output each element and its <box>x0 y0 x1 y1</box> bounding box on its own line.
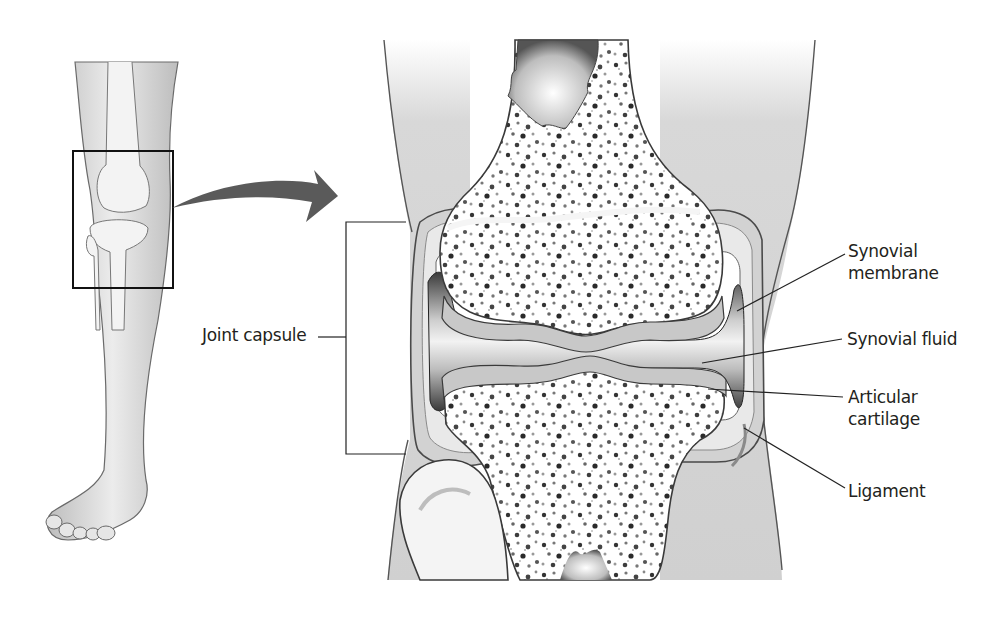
joint-capsule-bracket <box>346 222 406 454</box>
knee-diagram <box>0 0 1008 624</box>
fibula-small <box>86 236 100 330</box>
label-articular-cartilage: Articular cartilage <box>848 386 938 430</box>
magnify-arrow <box>172 170 338 222</box>
label-synovial-fluid: Synovial fluid <box>847 328 957 350</box>
label-joint-capsule: Joint capsule <box>202 324 306 346</box>
leg-overview-illustration <box>46 62 178 540</box>
label-synovial-membrane: Synovial membrane <box>848 240 988 284</box>
label-ligament: Ligament <box>848 480 925 502</box>
knee-detail-illustration <box>384 40 815 580</box>
